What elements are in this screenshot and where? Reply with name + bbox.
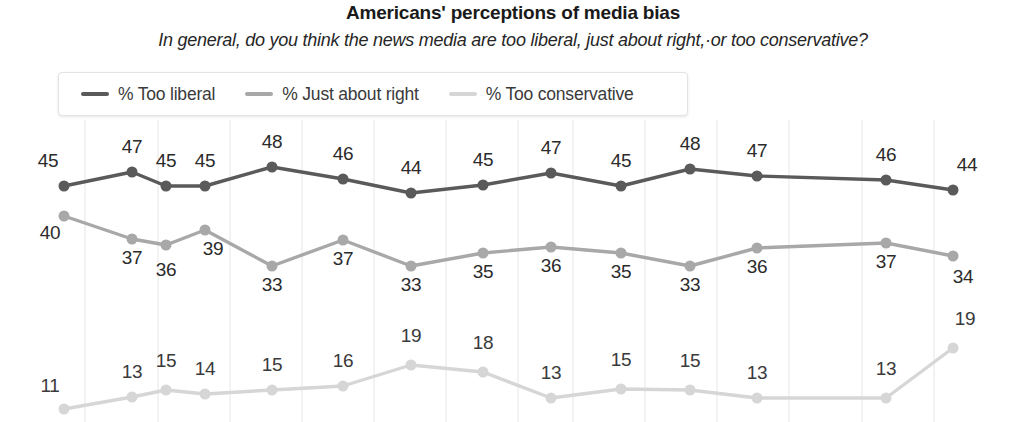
data-point-marker[interactable] [127,167,138,178]
data-label: 34 [953,266,973,288]
data-point-marker[interactable] [267,261,278,272]
data-label: 47 [541,137,561,159]
data-point-marker[interactable] [546,168,557,179]
data-label: 45 [195,150,215,172]
data-label: 47 [122,136,142,158]
chart-container: Americans' perceptions of media bias In … [0,0,1026,422]
data-point-marker[interactable] [161,385,172,396]
data-label: 13 [747,362,767,384]
data-point-marker[interactable] [59,181,70,192]
data-label: 19 [955,308,975,330]
data-label: 45 [156,150,176,172]
chart-legend: % Too liberal % Just about right % Too c… [58,72,688,116]
data-point-marker[interactable] [685,385,696,396]
data-point-marker[interactable] [127,234,138,245]
data-label: 37 [122,247,142,269]
data-point-marker[interactable] [406,188,417,199]
legend-item-too-liberal[interactable]: % Too liberal [81,84,215,105]
data-point-marker[interactable] [59,211,70,222]
data-label: 36 [156,259,176,281]
data-point-marker[interactable] [881,238,892,249]
data-label: 45 [38,150,58,172]
data-label: 45 [611,150,631,172]
data-point-marker[interactable] [338,235,349,246]
series-lines [59,162,959,415]
data-point-marker[interactable] [267,162,278,173]
data-point-marker[interactable] [478,367,489,378]
data-point-marker[interactable] [478,180,489,191]
data-point-marker[interactable] [338,381,349,392]
data-point-marker[interactable] [200,181,211,192]
data-label: 33 [680,274,700,296]
legend-label-too-liberal: % Too liberal [118,84,215,105]
data-point-marker[interactable] [616,181,627,192]
data-point-marker[interactable] [685,261,696,272]
data-label: 16 [333,350,353,372]
data-point-marker[interactable] [752,171,763,182]
data-point-marker[interactable] [200,389,211,400]
data-label: 44 [957,154,977,176]
data-label: 37 [876,251,896,273]
legend-label-just-about-right: % Just about right [282,84,418,105]
data-point-marker[interactable] [127,392,138,403]
data-point-marker[interactable] [881,175,892,186]
data-point-marker[interactable] [948,251,959,262]
data-point-marker[interactable] [546,242,557,253]
data-point-marker[interactable] [616,384,627,395]
data-label: 33 [401,274,421,296]
data-label: 13 [541,362,561,384]
data-point-marker[interactable] [406,360,417,371]
data-label: 37 [333,248,353,270]
data-label: 15 [156,350,176,372]
data-point-marker[interactable] [338,174,349,185]
data-label: 35 [611,261,631,283]
data-label: 44 [401,157,421,179]
plot-area [0,0,1026,422]
data-label: 36 [541,255,561,277]
series-line-right [64,216,953,266]
legend-label-too-conservative: % Too conservative [486,84,634,105]
legend-swatch-icon-too-conservative [449,92,477,96]
data-label: 13 [122,361,142,383]
data-label: 35 [473,261,493,283]
data-label: 47 [747,140,767,162]
data-point-marker[interactable] [59,404,70,415]
data-point-marker[interactable] [948,185,959,196]
legend-swatch-icon-too-liberal [81,92,109,96]
data-point-marker[interactable] [881,393,892,404]
data-label: 48 [680,133,700,155]
data-label: 40 [40,222,60,244]
data-label: 33 [262,274,282,296]
data-point-marker[interactable] [406,261,417,272]
data-label: 13 [876,358,896,380]
data-label: 36 [747,256,767,278]
data-point-marker[interactable] [267,385,278,396]
data-label: 45 [473,149,493,171]
data-label: 18 [473,332,493,354]
legend-item-just-about-right[interactable]: % Just about right [245,84,418,105]
data-point-marker[interactable] [752,393,763,404]
data-point-marker[interactable] [546,393,557,404]
legend-swatch-icon-just-about-right [245,92,273,96]
data-label: 15 [611,349,631,371]
data-label: 46 [876,144,896,166]
data-label: 14 [195,358,215,380]
data-point-marker[interactable] [948,343,959,354]
data-label: 46 [333,143,353,165]
data-point-marker[interactable] [200,225,211,236]
data-label: 15 [680,350,700,372]
data-point-marker[interactable] [616,248,627,259]
data-point-marker[interactable] [161,181,172,192]
data-label: 15 [262,354,282,376]
legend-item-too-conservative[interactable]: % Too conservative [449,84,634,105]
data-label: 19 [401,325,421,347]
data-point-marker[interactable] [161,240,172,251]
data-point-marker[interactable] [685,164,696,175]
data-label: 48 [262,131,282,153]
data-label: 39 [203,238,223,260]
data-point-marker[interactable] [752,243,763,254]
data-label: 11 [41,375,60,397]
data-point-marker[interactable] [478,248,489,259]
